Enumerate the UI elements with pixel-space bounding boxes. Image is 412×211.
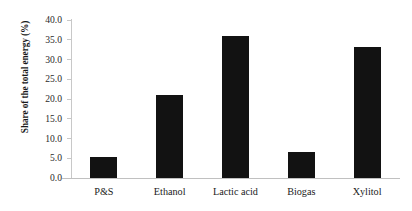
- bar-chart-figure: Share of the total energy (%) 0.05.010.0…: [0, 0, 412, 211]
- y-axis-tick-label: 40.0: [45, 14, 62, 26]
- y-axis-tick-label: 35.0: [45, 34, 62, 46]
- y-axis-tick-label: 30.0: [45, 54, 62, 66]
- x-axis-label: Ethanol: [137, 182, 203, 202]
- bar: [222, 36, 249, 178]
- y-axis-tick-label: 25.0: [45, 73, 62, 85]
- y-axis-tick-label: 0.0: [50, 172, 62, 184]
- x-axis-labels: P&SEthanolLactic acidBiogasXylitol: [71, 182, 400, 204]
- y-axis-tick-label: 10.0: [45, 133, 62, 145]
- y-axis-tick-label: 5.0: [50, 152, 62, 164]
- bar-slot: [137, 20, 203, 178]
- bar: [90, 157, 117, 178]
- bar: [156, 95, 183, 178]
- x-axis-label: Biogas: [268, 182, 334, 202]
- bar-slot: [334, 20, 400, 178]
- x-axis-line: [62, 178, 400, 179]
- x-axis-label: Xylitol: [334, 182, 400, 202]
- x-axis-label: P&S: [71, 182, 137, 202]
- bar-slot: [71, 20, 137, 178]
- bar-slot: [268, 20, 334, 178]
- plot-area: [71, 20, 400, 178]
- y-axis-tick-label: 20.0: [45, 93, 62, 105]
- bar-slot: [203, 20, 269, 178]
- y-axis-ticks: 0.05.010.015.020.025.030.035.040.0: [0, 0, 71, 211]
- y-axis-tick-label: 15.0: [45, 113, 62, 125]
- bar: [288, 152, 315, 178]
- bar: [354, 47, 381, 178]
- x-axis-label: Lactic acid: [203, 182, 269, 202]
